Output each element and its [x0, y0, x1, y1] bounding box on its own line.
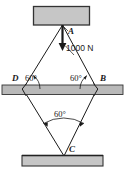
- statics-truss-figure: A 1000 N D 60° 60° B 60° C: [0, 0, 125, 171]
- label-point-b: B: [100, 74, 106, 83]
- angle-label-bottom: 60°: [54, 110, 66, 119]
- bottom-block: [22, 156, 103, 167]
- angle-label-left: 60°: [25, 74, 37, 83]
- top-block: [34, 7, 90, 26]
- label-point-c: C: [69, 145, 75, 154]
- figure-canvas: [0, 0, 125, 171]
- angle-arc-right-head: [84, 76, 87, 80]
- label-point-d: D: [12, 74, 19, 83]
- force-label-1000n: 1000 N: [66, 44, 93, 53]
- label-point-a: A: [68, 27, 74, 36]
- middle-support-bar: [2, 85, 123, 95]
- member-dc: [23, 89, 64, 156]
- angle-label-right: 60°: [70, 74, 82, 83]
